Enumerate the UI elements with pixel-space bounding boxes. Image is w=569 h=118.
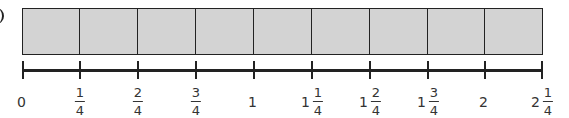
fraction: 14 (313, 86, 323, 117)
tick-mark (195, 61, 197, 79)
fraction: 34 (429, 86, 439, 117)
fraction-bar-line (191, 101, 201, 102)
fraction: 24 (371, 86, 381, 117)
fraction-bar (22, 8, 543, 55)
numerator: 1 (75, 86, 85, 99)
tick-mark (541, 61, 543, 79)
whole-number: 1 (359, 94, 368, 110)
tick-label: 214 (531, 86, 553, 117)
numerator: 1 (313, 86, 323, 99)
fraction-bar-line (133, 101, 143, 102)
denominator: 4 (76, 104, 84, 117)
whole-number: 2 (479, 94, 488, 110)
tick-mark (22, 61, 24, 79)
denominator: 4 (314, 104, 322, 117)
fraction: 14 (543, 86, 553, 117)
numerator: 3 (429, 86, 439, 99)
numerator: 3 (191, 86, 201, 99)
denominator: 4 (544, 104, 552, 117)
number-line (23, 69, 542, 72)
tick-label: 24 (133, 86, 143, 117)
tick-label: 124 (359, 86, 381, 117)
numerator: 1 (543, 86, 553, 99)
tick-label: 0 (17, 94, 29, 110)
fraction-bar-line (543, 101, 553, 102)
denominator: 4 (192, 104, 200, 117)
tick-mark (253, 61, 255, 79)
partial-question-label (0, 8, 4, 24)
whole-number: 1 (417, 94, 426, 110)
tick-mark (484, 61, 486, 79)
whole-number: 1 (248, 94, 257, 110)
tick-label: 14 (75, 86, 85, 117)
tick-label: 1 (248, 94, 260, 110)
numerator: 2 (371, 86, 381, 99)
bar-cell (23, 9, 80, 54)
bar-cell (370, 9, 428, 54)
whole-number: 2 (531, 94, 540, 110)
tick-label: 2 (479, 94, 491, 110)
fraction: 34 (191, 86, 201, 117)
fraction: 24 (133, 86, 143, 117)
tick-mark (369, 61, 371, 79)
tick-mark (311, 61, 313, 79)
fraction-bar-line (429, 101, 439, 102)
tick-label: 34 (191, 86, 201, 117)
numerator: 2 (133, 86, 143, 99)
tick-mark (427, 61, 429, 79)
bar-cell (312, 9, 370, 54)
bar-cell (485, 9, 542, 54)
whole-number: 0 (17, 94, 26, 110)
bar-cell (196, 9, 254, 54)
bar-cell (138, 9, 196, 54)
fraction-bar-line (75, 101, 85, 102)
tick-mark (79, 61, 81, 79)
denominator: 4 (430, 104, 438, 117)
bar-cell (80, 9, 138, 54)
tick-label: 114 (301, 86, 323, 117)
fraction: 14 (75, 86, 85, 117)
fraction-bar-line (313, 101, 323, 102)
bar-cell (254, 9, 312, 54)
denominator: 4 (372, 104, 380, 117)
tick-mark (137, 61, 139, 79)
tick-label: 134 (417, 86, 439, 117)
fraction-bar-line (371, 101, 381, 102)
denominator: 4 (134, 104, 142, 117)
whole-number: 1 (301, 94, 310, 110)
bar-cell (428, 9, 485, 54)
